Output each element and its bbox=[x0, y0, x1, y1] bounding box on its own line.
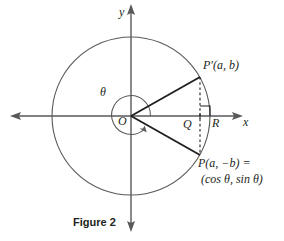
point-p-label-line2: (cos θ, sin θ) bbox=[201, 172, 263, 187]
point-p-label-line1: P(a, −b) = bbox=[198, 156, 251, 171]
origin-label: O bbox=[118, 115, 127, 128]
angle-theta-label: θ bbox=[100, 86, 106, 99]
unit-circle-diagram bbox=[0, 0, 284, 241]
figure-caption: Figure 2 bbox=[73, 216, 116, 228]
radius-to-p-prime bbox=[131, 77, 200, 116]
x-axis-label: x bbox=[243, 116, 248, 129]
figure-container: y x O Q R P′(a, b) θ P(a, −b) = (cos θ, … bbox=[0, 0, 284, 241]
point-r-label: R bbox=[212, 117, 219, 130]
point-q-label: Q bbox=[183, 118, 192, 131]
right-angle-marker bbox=[200, 106, 210, 116]
point-p-prime-label: P′(a, b) bbox=[203, 59, 239, 72]
y-axis-label: y bbox=[119, 6, 124, 19]
